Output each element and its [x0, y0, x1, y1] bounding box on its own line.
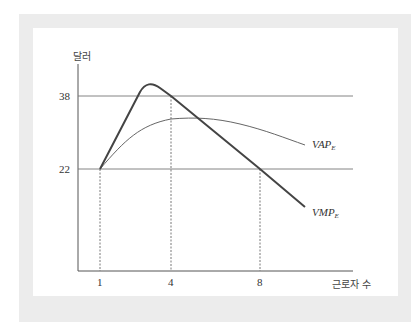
y-tick-38: 38 [59, 90, 71, 102]
vap-curve [100, 118, 305, 169]
chart: 달러 근로자 수 38 22 1 4 8 VAPE VMPE [0, 0, 411, 322]
x-tick-8: 8 [257, 276, 263, 288]
x-tick-1: 1 [97, 276, 103, 288]
vap-label: VAPE [312, 138, 336, 152]
y-tick-22: 22 [59, 163, 70, 175]
vmp-curve [100, 84, 305, 207]
y-axis-label: 달러 [73, 51, 91, 62]
x-axis-label: 근로자 수 [332, 279, 371, 290]
x-tick-4: 4 [168, 276, 174, 288]
vmp-label: VMPE [312, 206, 340, 220]
